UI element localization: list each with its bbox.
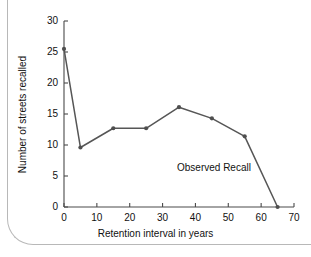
data-point: [275, 205, 279, 209]
y-tick-label: 20: [22, 78, 58, 88]
y-tick-label: 0: [22, 202, 58, 212]
x-axis-title: Retention interval in years: [0, 228, 311, 239]
x-tick-label: 60: [246, 213, 276, 223]
x-tick-label: 40: [180, 213, 210, 223]
data-point: [144, 126, 148, 130]
x-tick-label: 50: [213, 213, 243, 223]
y-tick-label: 30: [22, 16, 58, 26]
y-tick-label: 25: [22, 47, 58, 57]
y-tick-label: 15: [22, 109, 58, 119]
data-line-1: [64, 49, 278, 207]
data-point: [243, 134, 247, 138]
data-point: [62, 47, 66, 51]
x-tick-label: 0: [49, 213, 79, 223]
data-point: [177, 105, 181, 109]
observed-recall-annotation: Observed Recall: [177, 162, 251, 173]
data-point: [78, 145, 82, 149]
chart-figure: Number of streets recalled Retention int…: [0, 0, 311, 257]
x-tick-label: 30: [148, 213, 178, 223]
data-point: [111, 126, 115, 130]
x-tick-label: 20: [115, 213, 145, 223]
y-tick-label: 10: [22, 140, 58, 150]
data-point: [210, 116, 214, 120]
x-tick-label: 10: [82, 213, 112, 223]
x-tick-label: 70: [279, 213, 309, 223]
y-tick-label: 5: [22, 171, 58, 181]
